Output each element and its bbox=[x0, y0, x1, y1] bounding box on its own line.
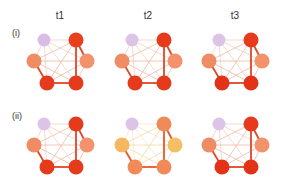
weak-edge bbox=[135, 40, 164, 83]
node-n5 bbox=[128, 76, 143, 91]
node-n6 bbox=[244, 160, 259, 175]
node-n2 bbox=[244, 117, 259, 132]
node-n4 bbox=[80, 54, 95, 69]
node-n6 bbox=[244, 76, 259, 91]
node-n5 bbox=[215, 160, 230, 175]
graph-i-t2 bbox=[115, 33, 183, 91]
node-n1 bbox=[38, 118, 51, 131]
node-n4 bbox=[168, 54, 183, 69]
weak-edge bbox=[222, 124, 251, 167]
node-n3 bbox=[27, 138, 42, 153]
weak-edge bbox=[222, 40, 251, 83]
graph-i-t3 bbox=[202, 33, 270, 91]
node-n3 bbox=[202, 138, 217, 153]
node-n4 bbox=[168, 138, 183, 153]
node-n5 bbox=[128, 160, 143, 175]
node-n1 bbox=[213, 34, 226, 47]
node-n2 bbox=[157, 33, 172, 48]
node-n6 bbox=[69, 160, 84, 175]
node-n4 bbox=[255, 138, 270, 153]
node-n2 bbox=[244, 33, 259, 48]
node-n1 bbox=[126, 34, 139, 47]
network-graphs bbox=[0, 0, 287, 181]
node-n1 bbox=[38, 34, 51, 47]
weak-edge bbox=[47, 40, 76, 83]
node-n5 bbox=[40, 76, 55, 91]
node-n6 bbox=[69, 76, 84, 91]
graph-ii-t3 bbox=[202, 117, 270, 175]
node-n3 bbox=[115, 54, 130, 69]
node-n3 bbox=[115, 138, 130, 153]
node-n5 bbox=[40, 160, 55, 175]
node-n1 bbox=[126, 118, 139, 131]
node-n1 bbox=[213, 118, 226, 131]
graph-ii-t1 bbox=[27, 117, 95, 175]
graph-ii-t2 bbox=[115, 117, 183, 175]
weak-edge bbox=[47, 124, 76, 167]
node-n6 bbox=[157, 76, 172, 91]
graph-i-t1 bbox=[27, 33, 95, 91]
node-n3 bbox=[27, 54, 42, 69]
node-n6 bbox=[157, 160, 172, 175]
node-n2 bbox=[69, 33, 84, 48]
node-n5 bbox=[215, 76, 230, 91]
node-n4 bbox=[255, 54, 270, 69]
node-n2 bbox=[157, 117, 172, 132]
node-n3 bbox=[202, 54, 217, 69]
node-n2 bbox=[69, 117, 84, 132]
weak-edge bbox=[135, 124, 164, 167]
node-n4 bbox=[80, 138, 95, 153]
